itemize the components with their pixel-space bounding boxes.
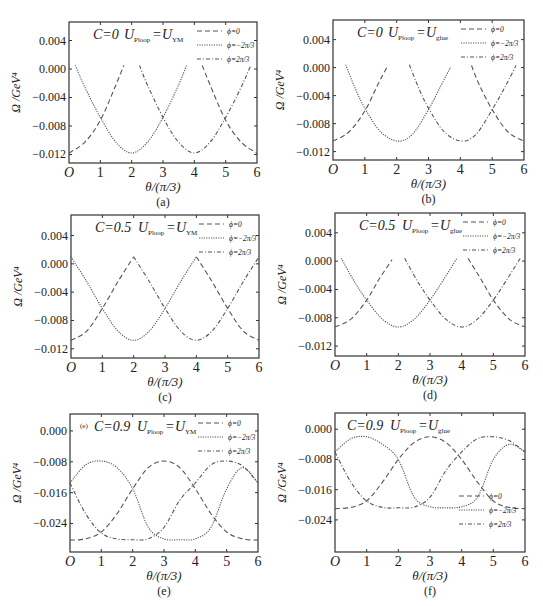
y-axis-label: Ω /GeV⁴	[9, 72, 23, 113]
x-axis-label: θ/(π/3)	[412, 372, 447, 387]
x-tick-label: 2	[130, 360, 137, 375]
series-line-dashed	[196, 257, 259, 341]
equals-sign: =	[153, 27, 161, 42]
x-tick-label: 3	[161, 554, 168, 569]
y-tick-label: 0.004	[39, 34, 66, 48]
y-tick-label: −0.016	[298, 483, 332, 497]
inner-tag: (e)	[80, 422, 88, 430]
x-tick-label: 1	[98, 554, 105, 569]
u-ploop-subscript: Ploop	[400, 427, 417, 435]
x-tick-label: 6	[522, 554, 529, 569]
x-tick-label: 3	[160, 165, 167, 180]
x-tick-label: 5	[490, 554, 497, 569]
x-axis-label: θ/(π/3)	[145, 179, 180, 194]
x-tick-label: 2	[393, 162, 400, 177]
x-tick-label: 6	[256, 360, 263, 375]
u-ploop-subscript: Ploop	[134, 36, 151, 44]
y-tick-label: −0.008	[34, 313, 68, 327]
y-tick-label: −0.008	[33, 455, 67, 469]
y-tick-label: −0.012	[34, 342, 68, 356]
series-line-dash-dot	[405, 258, 521, 327]
legend-label: ϕ=−2π/3	[228, 433, 256, 442]
x-tick-label: O	[65, 554, 75, 569]
x-tick-label: 2	[395, 358, 402, 373]
y-tick-label: −0.004	[32, 90, 66, 104]
y-tick-label: 0.004	[305, 226, 332, 240]
series-line-dotted	[341, 258, 457, 327]
u-ploop-subscript: Ploop	[412, 227, 429, 235]
y-tick-label: −0.024	[298, 513, 332, 527]
x-tick-label: O	[330, 358, 340, 373]
u-model-subscript: YM	[186, 229, 198, 237]
y-tick-label: −0.004	[296, 89, 330, 103]
series-line-dashed	[335, 260, 392, 327]
legend-label: ϕ=0	[493, 218, 506, 227]
y-tick-label: 0.000	[39, 62, 66, 76]
parameter-label: C=0.9	[347, 418, 383, 433]
legend: ϕ=0ϕ=−2π/3ϕ=2π/3	[197, 27, 255, 64]
x-axis-label: θ/(π/3)	[412, 568, 447, 583]
x-tick-label: 6	[521, 162, 528, 177]
y-tick-label: −0.004	[298, 282, 332, 296]
y-axis-label: Ω /GeV⁴	[273, 70, 287, 111]
x-tick-label: O	[328, 162, 338, 177]
equals-sign: =	[167, 220, 175, 235]
parameter-label: C=0.5	[95, 220, 131, 235]
y-tick-label: −0.004	[34, 285, 68, 299]
x-tick-label: 6	[255, 554, 262, 569]
parameter-label: C=0	[93, 27, 119, 42]
legend-label: ϕ=−2π/3	[493, 232, 521, 241]
equals-sign: =	[431, 218, 439, 233]
equals-sign: =	[417, 25, 425, 40]
x-axis-label: θ/(π/3)	[147, 374, 182, 389]
panel-b: O1234560.0040.000−0.004−0.008−0.012θ/(π/…	[273, 20, 528, 206]
y-tick-label: −0.016	[33, 486, 67, 500]
legend-label: ϕ=0	[228, 419, 241, 428]
u-ploop-subscript: Ploop	[148, 229, 165, 237]
panel-caption: (d)	[423, 388, 437, 402]
x-tick-label: O	[66, 360, 76, 375]
x-tick-label: 2	[395, 554, 402, 569]
x-tick-label: 2	[129, 554, 136, 569]
x-tick-label: 1	[363, 358, 370, 373]
parameter-label: C=0.5	[359, 218, 395, 233]
x-tick-label: 5	[490, 358, 497, 373]
legend-label: ϕ=2π/3	[491, 53, 514, 62]
series-line-dashed	[70, 461, 258, 540]
u-model-subscript: YM	[172, 36, 184, 44]
x-tick-label: 3	[425, 162, 432, 177]
u-ploop-subscript: Ploop	[398, 34, 415, 42]
panel-e: O1234560.000−0.008−0.016−0.024θ/(π/3)Ω /…	[10, 414, 262, 598]
y-axis-label: Ω /GeV⁴	[275, 264, 289, 305]
series-line-dotted	[346, 65, 451, 141]
panel-caption: (a)	[156, 195, 169, 209]
u-model-subscript: glue	[436, 34, 448, 42]
parameter-label: C=0.9	[94, 419, 130, 434]
series-line-dash-dot	[70, 461, 258, 540]
legend-label: ϕ=−2π/3	[489, 506, 517, 515]
figure: O1234560.0040.000−0.004−0.008−0.012θ/(π/…	[0, 0, 543, 606]
u-ploop-subscript: Ploop	[147, 428, 164, 436]
x-tick-label: 5	[224, 360, 231, 375]
x-tick-label: 3	[427, 358, 434, 373]
panel-f: O1234560.000−0.008−0.016−0.024θ/(π/3)Ω /…	[275, 413, 529, 598]
plot-frame	[335, 413, 525, 552]
equals-sign: =	[419, 418, 427, 433]
legend-label: ϕ=0	[227, 27, 240, 36]
x-tick-label: 4	[458, 554, 465, 569]
series-line-dashed	[468, 258, 525, 327]
legend: ϕ=0ϕ=−2π/3ϕ=2π/3	[461, 25, 519, 62]
y-tick-label: −0.012	[296, 145, 330, 159]
u-model-subscript: glue	[438, 427, 450, 435]
y-tick-label: −0.008	[296, 117, 330, 131]
parameter-label: C=0	[357, 25, 383, 40]
y-tick-label: 0.000	[305, 254, 332, 268]
y-tick-label: 0.000	[40, 424, 67, 438]
x-tick-label: 1	[97, 165, 104, 180]
panel-c: O1234560.0040.000−0.004−0.008−0.012θ/(π/…	[11, 215, 263, 404]
legend-label: ϕ=2π/3	[229, 248, 252, 257]
y-axis-label: Ω /GeV⁴	[10, 463, 24, 504]
u-model-subscript: YM	[185, 428, 197, 436]
panel-caption: (c)	[158, 390, 171, 404]
equals-sign: =	[166, 419, 174, 434]
